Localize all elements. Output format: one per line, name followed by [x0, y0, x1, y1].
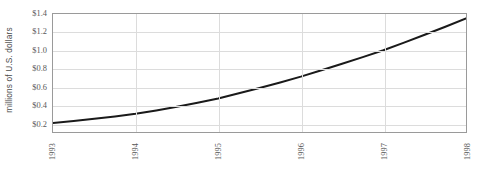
x-tick-label-text: 1994 [131, 143, 140, 160]
y-tick-label: $0.2 [32, 119, 47, 128]
x-tick-label-text: 1996 [297, 143, 306, 160]
y-tick-label: $0.4 [32, 101, 47, 110]
horizontal-gridline [53, 125, 466, 126]
horizontal-gridline [53, 69, 466, 70]
x-tick-label-text: 1998 [463, 143, 472, 160]
y-axis-title-text: millions of U.S. dollars [4, 27, 14, 113]
vertical-gridline [136, 14, 137, 132]
series-path [53, 19, 466, 123]
x-tick-label: 1997 [364, 136, 404, 170]
x-tick-label-text: 1997 [380, 143, 389, 160]
x-tick-label: 1994 [115, 136, 155, 170]
y-tick-label: $1.4 [32, 9, 47, 18]
x-tick-label: 1996 [281, 136, 321, 170]
x-tick-label: 1998 [447, 136, 487, 170]
y-tick-label: $0.6 [32, 82, 47, 91]
plot-area [52, 13, 467, 133]
vertical-gridline [302, 14, 303, 132]
y-tick-label: $0.8 [32, 64, 47, 73]
vertical-gridline [219, 14, 220, 132]
line-chart: millions of U.S. dollars $1.4$1.2$1.0$0.… [0, 0, 487, 171]
y-tick-label: $1.0 [32, 45, 47, 54]
x-tick-label-text: 1993 [48, 143, 57, 160]
x-tick-label: 1993 [32, 136, 72, 170]
horizontal-gridline [53, 51, 466, 52]
horizontal-gridline [53, 88, 466, 89]
horizontal-gridline [53, 32, 466, 33]
y-tick-label: $1.2 [32, 27, 47, 36]
y-axis-title: millions of U.S. dollars [0, 0, 18, 140]
x-tick-label: 1995 [198, 136, 238, 170]
horizontal-gridline [53, 106, 466, 107]
x-tick-label-text: 1995 [214, 143, 223, 160]
vertical-gridline [385, 14, 386, 132]
x-axis-tick-labels: 199319941995199619971998 [0, 133, 487, 171]
